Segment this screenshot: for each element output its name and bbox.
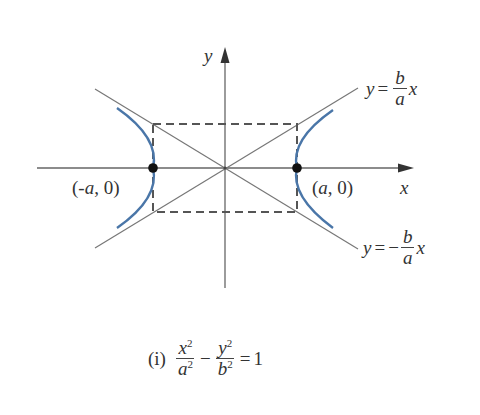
term-x-over-a: x2 a2 (176, 338, 195, 380)
hyperbola-equation: (i) x2 a2 − y2 b2 = 1 (148, 338, 263, 380)
asymptote-negative (95, 89, 358, 249)
origin-point (223, 166, 226, 169)
vertex-left-point (148, 163, 158, 173)
asymptote-positive-label: y = ba x (366, 68, 417, 109)
asymptote-negative-label: y = − ba x (363, 227, 425, 268)
equation-label: (i) (148, 348, 166, 370)
vertex-right-label: (a, 0) (312, 178, 353, 197)
vertex-left-label: (-a, 0) (72, 178, 119, 197)
y-axis-label: y (204, 46, 212, 65)
y-axis-arrow-icon (221, 47, 230, 63)
term-y-over-b: y2 b2 (216, 338, 235, 380)
vertex-right-point (292, 163, 302, 173)
x-axis-arrow-icon (398, 164, 414, 173)
x-axis-label: x (400, 178, 408, 197)
